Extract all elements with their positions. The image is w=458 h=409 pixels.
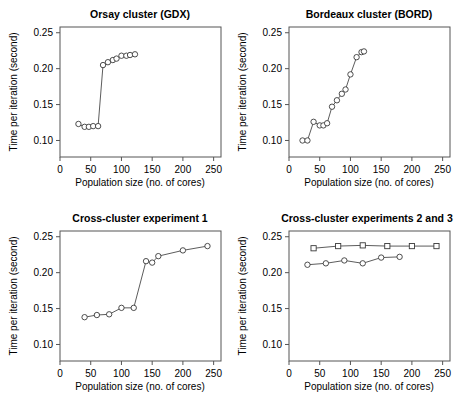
x-tick-label: 100 [342, 368, 359, 379]
y-tick-label: 0.25 [34, 231, 54, 242]
data-point-marker [385, 243, 390, 248]
data-point-marker [119, 305, 124, 310]
data-point-marker [132, 52, 137, 57]
data-point-marker [114, 56, 119, 61]
plot-orsay-cluster: Orsay cluster (GDX) Population size (no.… [0, 0, 229, 204]
x-tick-label: 100 [342, 164, 359, 175]
data-point-marker [334, 98, 339, 103]
x-axis-title: Population size (no. of cores) [75, 177, 205, 188]
series-line [78, 54, 135, 127]
plot-bordeaux-cluster: Bordeaux cluster (BORD) Population size … [229, 0, 458, 204]
data-point-marker [311, 246, 316, 251]
x-axis-title: Population size (no. of cores) [304, 381, 434, 392]
data-point-marker [305, 262, 310, 267]
x-tick-label: 250 [434, 164, 451, 175]
data-point-marker [94, 312, 99, 317]
y-tick-label: 0.10 [263, 339, 283, 350]
y-tick-label: 0.20 [34, 267, 54, 278]
data-point-marker [336, 243, 341, 248]
x-tick-label: 150 [373, 164, 390, 175]
series-line [85, 246, 208, 317]
data-point-marker [360, 243, 365, 248]
data-point-marker [82, 314, 87, 319]
panel-bordeaux-cluster: Bordeaux cluster (BORD) Population size … [229, 0, 458, 204]
data-point-marker [329, 104, 334, 109]
x-tick-label: 0 [57, 368, 63, 379]
plot-content: 0.100.150.200.25050100150200250 [34, 231, 223, 379]
x-tick-label: 250 [205, 164, 222, 175]
data-point-marker [409, 243, 414, 248]
data-point-marker [95, 123, 100, 128]
x-tick-label: 50 [314, 164, 326, 175]
y-tick-label: 0.15 [263, 99, 283, 110]
series-line [314, 245, 437, 248]
data-point-marker [434, 243, 439, 248]
x-tick-label: 0 [57, 164, 63, 175]
x-tick-label: 50 [314, 368, 326, 379]
y-tick-label: 0.20 [263, 267, 283, 278]
x-tick-label: 150 [373, 368, 390, 379]
series-line [303, 51, 364, 140]
plot-cross-cluster-experiments-2-and-3: Cross-cluster experiments 2 and 3 Popula… [229, 204, 458, 409]
plot-frame [289, 27, 450, 157]
panel-title: Cross-cluster experiments 2 and 3 [281, 212, 453, 224]
y-tick-label: 0.15 [263, 303, 283, 314]
data-point-marker [323, 261, 328, 266]
y-tick-label: 0.10 [34, 339, 54, 350]
y-tick-label: 0.25 [34, 27, 54, 38]
data-point-marker [180, 248, 185, 253]
y-tick-label: 0.25 [263, 27, 283, 38]
data-point-marker [343, 87, 348, 92]
x-tick-label: 50 [85, 368, 97, 379]
data-point-marker [348, 72, 353, 77]
x-tick-label: 200 [175, 368, 192, 379]
data-point-marker [342, 258, 347, 263]
data-point-marker [305, 138, 310, 143]
data-point-marker [76, 121, 81, 126]
y-tick-label: 0.10 [34, 135, 54, 146]
y-tick-label: 0.15 [34, 99, 54, 110]
x-tick-label: 0 [286, 368, 292, 379]
data-point-marker [156, 253, 161, 258]
data-point-marker [354, 54, 359, 59]
x-tick-label: 200 [175, 164, 192, 175]
x-axis-title: Population size (no. of cores) [304, 177, 434, 188]
y-tick-label: 0.20 [34, 63, 54, 74]
y-axis-title: Time per iteration (second) [237, 32, 248, 151]
y-tick-label: 0.20 [263, 63, 283, 74]
y-tick-label: 0.25 [263, 231, 283, 242]
data-point-marker [143, 258, 148, 263]
panel-orsay-cluster: Orsay cluster (GDX) Population size (no.… [0, 0, 229, 204]
x-tick-label: 100 [113, 368, 130, 379]
data-point-marker [100, 62, 105, 67]
x-axis-title: Population size (no. of cores) [75, 381, 205, 392]
x-tick-label: 250 [434, 368, 451, 379]
x-tick-label: 150 [144, 368, 161, 379]
y-tick-label: 0.15 [34, 303, 54, 314]
panel-title: Orsay cluster (GDX) [90, 8, 190, 20]
data-point-marker [360, 261, 365, 266]
data-point-marker [324, 121, 329, 126]
data-point-marker [361, 49, 366, 54]
x-tick-label: 200 [404, 368, 421, 379]
data-point-marker [131, 305, 136, 310]
data-point-marker [397, 254, 402, 259]
y-axis-title: Time per iteration (second) [237, 236, 248, 355]
panel-cross-cluster-experiments-2-and-3: Cross-cluster experiments 2 and 3 Popula… [229, 204, 458, 408]
plot-cross-cluster-experiment-1: Cross-cluster experiment 1 Population si… [0, 204, 229, 409]
plot-content: 0.100.150.200.25050100150200250 [263, 27, 452, 175]
x-tick-label: 200 [404, 164, 421, 175]
panel-title: Bordeaux cluster (BORD) [306, 8, 433, 20]
plot-content: 0.100.150.200.25050100150200250 [263, 231, 452, 379]
data-point-marker [205, 243, 210, 248]
y-tick-label: 0.10 [263, 135, 283, 146]
data-point-marker [378, 255, 383, 260]
x-tick-label: 150 [144, 164, 161, 175]
x-tick-label: 250 [205, 368, 222, 379]
x-tick-label: 0 [286, 164, 292, 175]
plot-frame [60, 27, 221, 157]
y-axis-title: Time per iteration (second) [8, 236, 19, 355]
x-tick-label: 100 [113, 164, 130, 175]
panel-title: Cross-cluster experiment 1 [72, 212, 208, 224]
data-point-marker [149, 260, 154, 265]
